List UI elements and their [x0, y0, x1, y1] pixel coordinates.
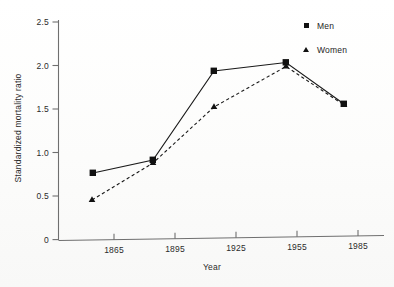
data-point-men	[341, 101, 347, 107]
series-markers-men	[90, 59, 347, 176]
x-tick-label-1955: 1955	[287, 242, 307, 252]
x-tick-label-1895: 1895	[165, 244, 185, 254]
chart-legend: Men Women	[300, 18, 347, 66]
y-tick-label-1-0: 1.0	[28, 148, 49, 158]
legend-label-women: Women	[317, 45, 347, 55]
legend-item-women: Women	[300, 42, 347, 57]
triangle-marker-icon	[300, 47, 312, 52]
legend-label-men: Men	[317, 21, 334, 31]
y-tick-label-1-5: 1.5	[28, 104, 49, 114]
y-axis-title: Standardized mortality ratio	[13, 73, 23, 182]
x-tick-label-1985: 1985	[348, 241, 368, 251]
y-axis-ticks	[53, 22, 59, 240]
y-tick-label-2-0: 2.0	[28, 61, 49, 71]
x-axis-line	[59, 236, 385, 241]
x-tick-label-1925: 1925	[226, 243, 246, 253]
y-tick-label-2-5: 2.5	[28, 17, 49, 27]
series-line-women	[92, 67, 344, 201]
data-point-men	[283, 59, 289, 65]
data-point-men	[211, 68, 217, 74]
data-point-men	[90, 170, 96, 176]
data-point-men	[150, 157, 156, 163]
y-tick-label-0-5: 0.5	[28, 191, 49, 201]
chart-figure: 2.5 2.0 1.5 1.0 0.5 0 1865 1895 1925 195…	[0, 0, 394, 287]
series-line-men	[93, 63, 344, 174]
x-axis-title: Year	[203, 262, 221, 272]
legend-item-men: Men	[300, 18, 347, 33]
series-markers-women	[89, 63, 348, 202]
x-tick-label-1865: 1865	[104, 245, 124, 255]
y-tick-label-0: 0	[28, 235, 49, 245]
square-marker-icon	[300, 23, 312, 28]
